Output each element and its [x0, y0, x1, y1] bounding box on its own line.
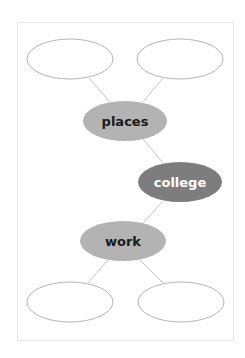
edge-work-to-bottom-left	[88, 260, 108, 283]
node-work[interactable]: work	[80, 221, 166, 261]
empty-node-bottom-left[interactable]	[27, 282, 113, 322]
node-college-label: college	[154, 175, 207, 190]
node-college[interactable]: college	[138, 162, 222, 202]
empty-node-bottom-right[interactable]	[138, 282, 224, 322]
edge-college-to-work	[143, 201, 163, 223]
edge-work-to-bottom-right	[140, 260, 163, 283]
concept-map: places college work	[0, 0, 245, 358]
edge-top-right-to-places	[143, 78, 163, 102]
empty-node-top-left[interactable]	[27, 39, 113, 79]
edge-top-left-to-places	[89, 78, 110, 102]
empty-node-top-right[interactable]	[137, 39, 223, 79]
edge-places-to-college	[143, 139, 163, 163]
node-work-label: work	[105, 234, 141, 249]
node-places[interactable]: places	[83, 101, 167, 141]
node-places-label: places	[102, 114, 149, 129]
